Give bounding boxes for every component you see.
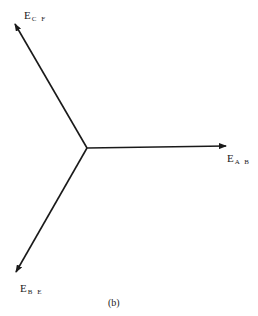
vector-e-ab (87, 146, 226, 148)
label-e-ab-sub: A B (235, 158, 251, 166)
vector-e-cf (15, 24, 87, 148)
vector-e-be (16, 148, 87, 272)
label-e-cf: EC F (24, 10, 47, 21)
label-e-cf-sub: C F (32, 15, 47, 23)
figure-caption: (b) (108, 297, 120, 308)
phasor-diagram (0, 0, 258, 316)
label-e-cf-main: E (24, 9, 31, 21)
label-e-ab: EA B (227, 153, 250, 164)
label-e-be-main: E (20, 282, 27, 294)
label-e-be: EB E (20, 283, 43, 294)
label-e-be-sub: B E (28, 288, 43, 296)
label-e-ab-main: E (227, 152, 234, 164)
